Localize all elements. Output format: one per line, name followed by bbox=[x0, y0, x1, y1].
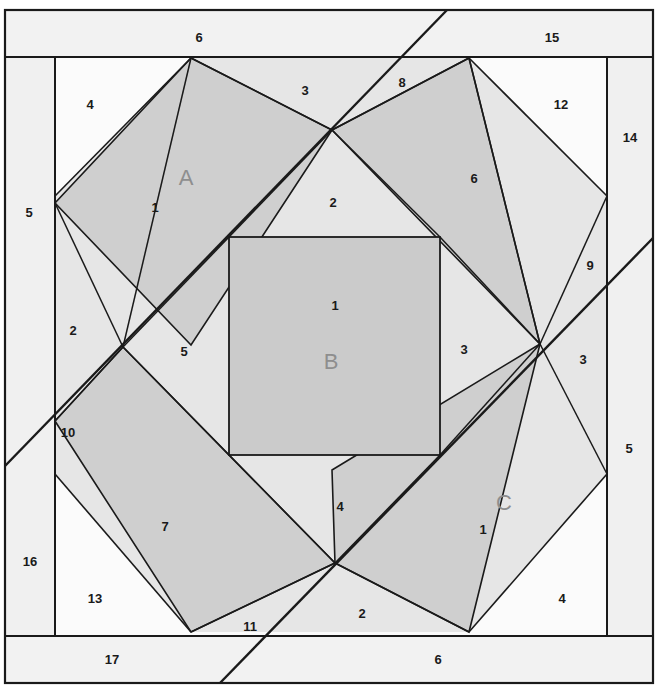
number-label-n-top-right-12: 12 bbox=[554, 97, 568, 112]
number-label-n-top-band-6: 6 bbox=[195, 30, 202, 45]
number-label-n-left-10: 10 bbox=[61, 425, 75, 440]
number-label-n-left-5: 5 bbox=[25, 205, 32, 220]
number-label-n-sq-b-1: 1 bbox=[331, 298, 338, 313]
number-label-n-right-14: 14 bbox=[623, 130, 638, 145]
region-label-square-b: B bbox=[324, 349, 339, 374]
number-label-n-right-9: 9 bbox=[586, 258, 593, 273]
number-label-n-rect-top-right-6: 6 bbox=[470, 171, 477, 186]
region-label-rect-a: A bbox=[179, 165, 194, 190]
square-b-shape bbox=[229, 237, 440, 455]
number-label-n-rect-c-1: 1 bbox=[479, 522, 486, 537]
number-label-n-right-3: 3 bbox=[579, 352, 586, 367]
number-label-n-right-5: 5 bbox=[625, 441, 632, 456]
geometric-figure: ABC 615438121451269125331054711613112417… bbox=[0, 0, 659, 697]
diagram-canvas: ABC 615438121451269125331054711613112417… bbox=[0, 0, 659, 697]
number-label-n-top-mid-3: 3 bbox=[301, 83, 308, 98]
number-label-n-bottom-band-6: 6 bbox=[434, 652, 441, 667]
number-label-n-center-left-5: 5 bbox=[180, 344, 187, 359]
number-label-n-bottom-band-17: 17 bbox=[105, 652, 119, 667]
number-label-n-center-top-2: 2 bbox=[329, 195, 336, 210]
number-label-n-left-2: 2 bbox=[69, 323, 76, 338]
number-label-n-left-16: 16 bbox=[23, 554, 37, 569]
number-label-n-bottom-mid-2: 2 bbox=[358, 606, 365, 621]
region-label-rect-c: C bbox=[496, 490, 512, 515]
number-label-n-rect-bottom-left-7: 7 bbox=[161, 519, 168, 534]
number-label-n-top-left-4: 4 bbox=[86, 97, 94, 112]
number-label-n-bottom-11: 11 bbox=[243, 619, 257, 634]
number-label-n-center-right-3: 3 bbox=[460, 342, 467, 357]
number-label-n-center-bottom-4: 4 bbox=[336, 499, 344, 514]
number-label-n-top-8: 8 bbox=[398, 75, 405, 90]
number-label-n-top-band-15: 15 bbox=[545, 30, 559, 45]
number-label-n-rect-a-1: 1 bbox=[151, 200, 158, 215]
number-label-n-bottom-left-13: 13 bbox=[88, 591, 102, 606]
number-label-n-bottom-right-4: 4 bbox=[558, 591, 566, 606]
